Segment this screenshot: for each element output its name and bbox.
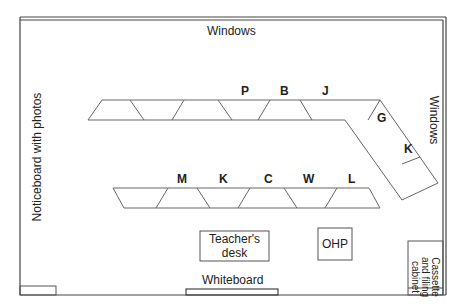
student-label-j: J <box>322 84 329 98</box>
student-label-b: B <box>280 84 289 98</box>
student-label-g: G <box>377 111 386 125</box>
right-windows-label: Windows <box>427 90 441 150</box>
top-windows-label: Windows <box>207 24 256 38</box>
noticeboard-label: Noticeboard with photos <box>30 82 44 232</box>
whiteboard-label: Whiteboard <box>202 273 263 287</box>
cabinet-line2: and filing <box>420 251 430 303</box>
teacher-desk-line1: Teacher's <box>200 232 269 246</box>
corner-box <box>20 286 56 295</box>
student-label-c: C <box>264 172 273 186</box>
student-label-k-top: K <box>404 142 413 156</box>
cabinet-line1: Cassette <box>430 251 440 303</box>
cabinet-line3: cabinet <box>410 251 420 303</box>
student-label-p: P <box>241 84 249 98</box>
teacher-desk-line2: desk <box>200 246 269 260</box>
bottom-row-desks <box>113 188 380 208</box>
whiteboard <box>186 289 278 295</box>
ohp-label: OHP <box>318 237 352 251</box>
classroom-layout-diagram <box>0 0 463 308</box>
teacher-desk-label: Teacher's desk <box>200 232 269 260</box>
student-label-k-bottom: K <box>219 172 228 186</box>
student-label-w: W <box>303 172 314 186</box>
cabinet-label: Cassette and filing cabinet <box>410 251 440 303</box>
student-label-m: M <box>177 172 187 186</box>
student-label-l: L <box>348 172 355 186</box>
